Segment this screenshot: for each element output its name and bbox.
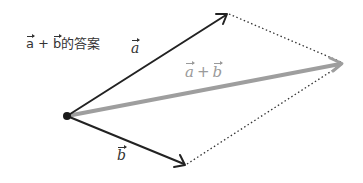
vector-arrow-icon (132, 40, 139, 41)
vector-b-arrow (67, 116, 185, 167)
title-suffix: 的答案 (61, 36, 100, 51)
diagram-title: a+b的答案 (26, 33, 100, 52)
vector-arrow-icon (186, 63, 194, 64)
title-vector-a: a (26, 36, 34, 51)
vector-arrow-icon (54, 36, 61, 37)
title-vector-b: b (53, 36, 61, 51)
vector-diagram (0, 0, 363, 183)
label-sum-vector: a+b (185, 63, 222, 81)
vector-arrow-icon (27, 36, 34, 37)
vector-arrow-icon (214, 63, 223, 64)
dotted-line-a-to-sum (229, 14, 341, 62)
title-plus: + (38, 36, 49, 51)
vector-arrow-icon (118, 147, 126, 148)
label-vector-a: a (131, 40, 139, 56)
label-vector-b: b (117, 147, 126, 163)
origin-point (63, 112, 71, 120)
